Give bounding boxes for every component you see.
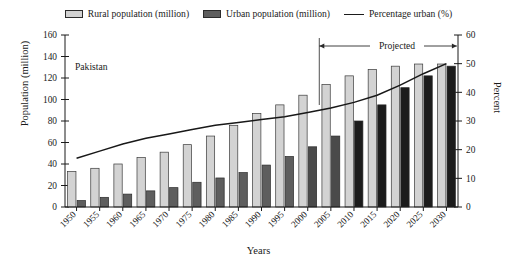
x-tick-label: 1955 [81,209,101,229]
y-tick-label: 140 [43,52,57,62]
bar-urban [239,173,247,207]
bar-rural [253,113,261,207]
bar-urban [378,105,386,207]
projected-arrowhead-left [319,43,324,48]
y-tick-label: 0 [52,202,57,212]
bar-rural [345,76,353,207]
projected-annotation: Projected [379,40,415,51]
chart-plot-area: 020406080100120140160 0102030405060 1950… [0,0,517,269]
bar-rural [322,84,330,207]
bar-rural [91,168,99,207]
bar-urban [401,88,409,207]
bar-urban [285,156,293,207]
x-tick-label: 1950 [58,209,78,229]
bar-rural [68,172,76,207]
bar-rural [276,105,284,207]
bar-series-group [68,64,456,207]
bar-urban [193,182,201,207]
bar-rural [206,136,214,207]
country-annotation: Pakistan [75,61,108,72]
y2-tick-label: 20 [466,145,476,155]
y2-tick-label: 60 [466,30,476,40]
bar-urban [424,76,432,207]
bar-urban [216,178,224,207]
y-tick-label: 120 [43,73,57,83]
bar-rural [160,152,168,207]
y-tick-label: 100 [43,95,57,105]
chart-figure: Rural population (million) Urban populat… [0,0,517,269]
y-tick-label: 60 [48,138,58,148]
bar-rural [438,64,446,207]
bar-rural [183,145,191,207]
x-tick-label: 2010 [335,209,355,229]
x-tick-label: 2015 [358,209,378,229]
x-tick-label: 1965 [127,209,147,229]
bar-urban [308,147,316,207]
bar-urban [262,165,270,207]
bar-rural [229,125,237,207]
bar-rural [137,158,145,207]
x-tick-label: 2005 [312,209,332,229]
bar-rural [299,95,307,207]
x-tick-label: 2000 [289,209,309,229]
x-axis-ticks: 1950195519601965197019751980198519901995… [58,207,448,229]
bar-urban [147,191,155,207]
y2-tick-label: 50 [466,59,476,69]
y2-tick-label: 10 [466,174,476,184]
bar-urban [100,197,108,207]
x-tick-label: 1990 [243,209,263,229]
x-tick-label: 1960 [104,209,124,229]
x-tick-label: 1980 [197,209,217,229]
y-tick-label: 20 [48,181,58,191]
bar-rural [114,164,122,207]
bar-urban [77,201,85,207]
y-tick-label: 80 [48,116,58,126]
x-tick-label: 1995 [266,209,286,229]
y-tick-label: 40 [48,159,58,169]
bar-urban [331,136,339,207]
bar-rural [414,64,422,207]
bar-urban [170,188,178,207]
x-tick-label: 1975 [173,209,193,229]
y2-tick-label: 0 [466,202,471,212]
x-tick-label: 2030 [428,209,448,229]
y-tick-label: 160 [43,30,57,40]
bar-urban [355,121,363,207]
x-tick-label: 2020 [382,209,402,229]
bar-rural [368,69,376,207]
y2-tick-label: 30 [466,116,476,126]
projected-arrowhead-right [452,43,457,48]
y-axis-right-ticks: 0102030405060 [454,30,476,212]
bar-urban [123,194,131,207]
x-tick-label: 1970 [150,209,170,229]
x-tick-label: 1985 [220,209,240,229]
y2-tick-label: 40 [466,88,476,98]
x-tick-label: 2025 [405,209,425,229]
bar-urban [447,66,455,207]
